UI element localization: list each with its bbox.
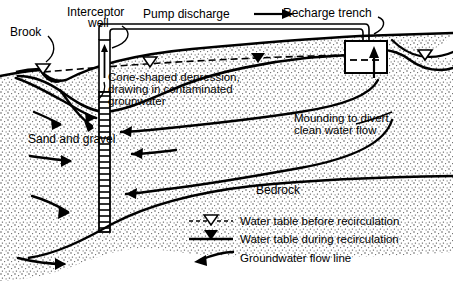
leader-recharge-trench	[374, 17, 384, 34]
legend-label-groundwater-flow: Groundwater flow line	[240, 252, 351, 264]
legend-label-water-table-before: Water table before recirculation	[240, 215, 399, 227]
label-recharge-trench: Recharge trench	[283, 6, 372, 20]
diagram-canvas: Brook Interceptor well Pump discharge Re…	[0, 0, 453, 298]
legend-curved-arrow-head-icon	[194, 255, 207, 266]
leader-brook	[46, 36, 54, 62]
label-sand-and-gravel: Sand and gravel	[28, 132, 115, 146]
legend-label-water-table-during: Water table during recirculation	[240, 233, 399, 245]
groundwater-recirculation-diagram: Brook Interceptor well Pump discharge Re…	[0, 0, 453, 298]
label-cone-line2: drawing in contaminated	[108, 83, 233, 95]
legend-item-groundwater-flow: Groundwater flow line	[194, 252, 351, 266]
label-brook: Brook	[10, 25, 42, 39]
label-interceptor-well-line2: well	[87, 16, 109, 30]
recharge-trench-box	[345, 41, 387, 73]
label-mounding-line1: Mounding to divert	[294, 112, 389, 124]
label-pump-discharge: Pump discharge	[143, 7, 230, 21]
recharge-trench	[345, 41, 387, 73]
label-bedrock: Bedrock	[256, 183, 301, 197]
label-cone-line3: grounwater	[108, 95, 166, 107]
label-mounding-line2: clean water flow	[294, 124, 377, 136]
label-cone-line1: Cone-shaped depression,	[108, 71, 240, 83]
